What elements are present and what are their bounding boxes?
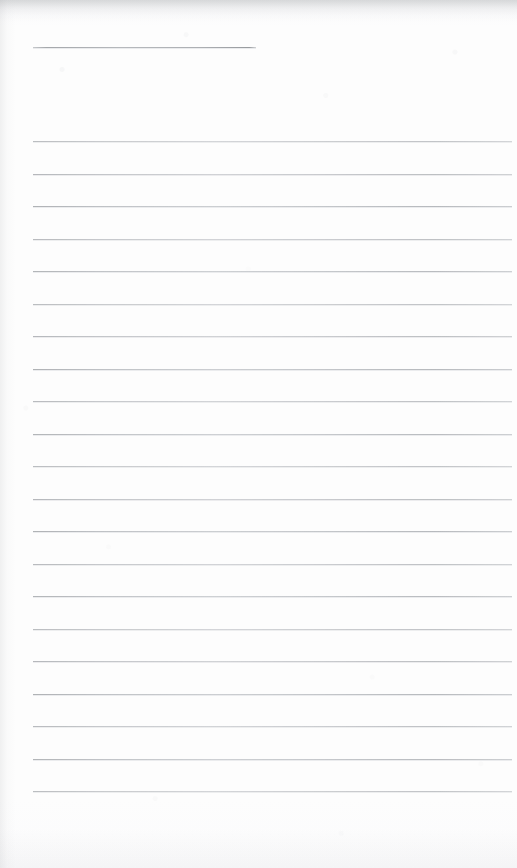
ruled-line <box>33 694 512 695</box>
rule-halo <box>33 532 512 533</box>
ruled-line <box>33 174 512 175</box>
rule-halo <box>33 565 512 566</box>
scanned-page <box>0 0 517 868</box>
ruled-line <box>33 596 512 597</box>
ruled-line <box>33 141 512 142</box>
rule-halo <box>33 305 512 306</box>
rule-halo <box>33 272 512 273</box>
rule-halo <box>33 240 512 241</box>
rule-halo <box>33 435 512 436</box>
ruled-lines-group <box>0 0 517 868</box>
rule-halo <box>33 467 512 468</box>
rule-halo <box>33 207 512 208</box>
rule-halo <box>33 175 512 176</box>
ruled-line <box>33 726 512 727</box>
rule-halo <box>33 630 512 631</box>
ruled-line <box>33 466 512 467</box>
rule-halo <box>33 662 512 663</box>
rule-halo <box>33 695 512 696</box>
ruled-line <box>33 206 512 207</box>
ruled-line <box>33 759 512 760</box>
rule-halo <box>33 402 512 403</box>
ruled-line <box>33 239 512 240</box>
rule-halo <box>33 727 512 728</box>
rule-halo <box>33 500 512 501</box>
rule-halo <box>33 760 512 761</box>
ruled-line <box>33 336 512 337</box>
rule-halo <box>33 337 512 338</box>
rule-halo <box>33 142 512 143</box>
ruled-line <box>33 434 512 435</box>
ruled-line <box>33 271 512 272</box>
ruled-line <box>33 369 512 370</box>
rule-halo <box>33 792 512 793</box>
ruled-line <box>33 629 512 630</box>
ruled-line <box>33 661 512 662</box>
ruled-line <box>33 531 512 532</box>
ruled-line <box>33 564 512 565</box>
ruled-line <box>33 401 512 402</box>
rule-halo <box>33 597 512 598</box>
ruled-line <box>33 304 512 305</box>
rule-halo <box>33 370 512 371</box>
ruled-line <box>33 791 512 792</box>
ruled-line <box>33 499 512 500</box>
